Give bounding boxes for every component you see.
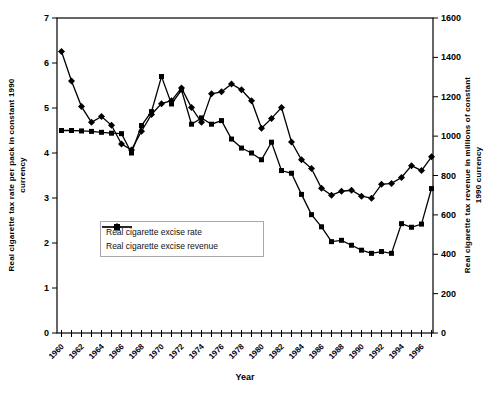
- svg-text:1600: 1600: [441, 13, 461, 23]
- svg-text:1990: 1990: [347, 342, 366, 361]
- svg-text:1962: 1962: [67, 342, 86, 361]
- svg-text:1000: 1000: [441, 131, 461, 141]
- svg-text:1968: 1968: [127, 342, 146, 361]
- svg-text:800: 800: [441, 171, 456, 181]
- svg-text:600: 600: [441, 210, 456, 220]
- svg-text:1996: 1996: [407, 342, 426, 361]
- svg-text:1978: 1978: [227, 342, 246, 361]
- svg-text:1970: 1970: [147, 342, 166, 361]
- svg-text:1972: 1972: [167, 342, 186, 361]
- left-axis-title-line1: Real cigarette tax rate per pack in cons…: [6, 10, 17, 340]
- legend: Real cigarette excise rate Real cigarett…: [100, 221, 264, 257]
- svg-text:1400: 1400: [441, 52, 461, 62]
- diamond-marker-icon: [101, 222, 133, 232]
- svg-text:1: 1: [44, 283, 49, 293]
- svg-text:6: 6: [44, 58, 49, 68]
- chart-plot-area: 0123456702004006008001000120014001600196…: [0, 0, 503, 396]
- svg-text:1960: 1960: [47, 342, 66, 361]
- svg-text:200: 200: [441, 289, 456, 299]
- svg-text:1200: 1200: [441, 92, 461, 102]
- legend-label-revenue: Real cigarette excise revenue: [106, 241, 218, 251]
- svg-text:1994: 1994: [387, 342, 406, 361]
- svg-text:3: 3: [44, 193, 49, 203]
- right-axis-title-line1: Real cigarette tax revenue in millions o…: [462, 10, 473, 340]
- left-axis-title-line2: currency: [17, 10, 28, 340]
- svg-text:5: 5: [44, 103, 49, 113]
- svg-text:0: 0: [441, 328, 446, 338]
- svg-text:400: 400: [441, 249, 456, 259]
- svg-text:7: 7: [44, 13, 49, 23]
- cigarette-tax-chart: 0123456702004006008001000120014001600196…: [0, 0, 503, 396]
- left-axis-title: Real cigarette tax rate per pack in cons…: [6, 10, 28, 340]
- svg-text:1966: 1966: [107, 342, 126, 361]
- svg-text:1986: 1986: [307, 342, 326, 361]
- svg-text:0: 0: [44, 328, 49, 338]
- right-axis-title: Real cigarette tax revenue in millions o…: [462, 10, 484, 340]
- svg-text:1974: 1974: [187, 342, 206, 361]
- svg-text:1992: 1992: [367, 342, 386, 361]
- svg-text:1988: 1988: [327, 342, 346, 361]
- svg-text:1980: 1980: [247, 342, 266, 361]
- svg-text:4: 4: [44, 148, 49, 158]
- x-axis-title: Year: [195, 372, 295, 382]
- legend-row-revenue: Real cigarette excise revenue: [106, 239, 258, 253]
- svg-text:1982: 1982: [267, 342, 286, 361]
- svg-text:1984: 1984: [287, 342, 306, 361]
- svg-text:1976: 1976: [207, 342, 226, 361]
- right-axis-title-line2: 1990 currency: [473, 10, 484, 340]
- svg-text:1964: 1964: [87, 342, 106, 361]
- svg-text:2: 2: [44, 238, 49, 248]
